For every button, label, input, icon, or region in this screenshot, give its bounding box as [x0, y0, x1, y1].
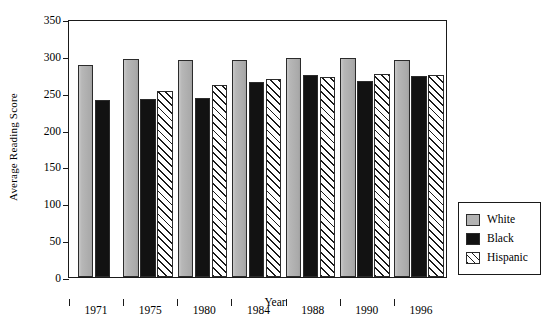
bar-hispanic-1988	[320, 77, 336, 277]
y-tick-label: 200	[31, 126, 61, 138]
legend-item-hispanic: Hispanic	[466, 248, 533, 267]
bar-hispanic-1980	[212, 85, 228, 277]
bar-white-1988	[286, 58, 302, 277]
legend-item-black: Black	[466, 229, 533, 248]
bar-white-1996	[394, 60, 410, 277]
y-tick-label: 150	[31, 162, 61, 174]
bar-white-1980	[178, 60, 194, 277]
figure: Average Reading Score 050100150200250300…	[0, 0, 550, 315]
bar-black-1988	[303, 75, 319, 277]
y-tick-label: 50	[31, 236, 61, 248]
bar-white-1984	[232, 60, 248, 277]
legend-label: Black	[487, 233, 514, 245]
y-tick-mark	[63, 242, 69, 243]
y-tick-mark	[63, 205, 69, 206]
y-tick-mark	[63, 132, 69, 133]
bar-hispanic-1975	[157, 91, 173, 277]
bar-hispanic-1990	[374, 74, 390, 277]
bar-black-1990	[357, 81, 373, 277]
y-tick-label: 350	[31, 15, 61, 27]
y-tick-label: 250	[31, 89, 61, 101]
bar-black-1984	[249, 82, 265, 277]
bar-black-1996	[411, 76, 427, 277]
y-axis-title: Average Reading Score	[7, 27, 19, 267]
y-tick-label: 300	[31, 52, 61, 64]
bar-hispanic-1996	[428, 75, 444, 277]
legend-label: Hispanic	[487, 252, 528, 264]
legend: WhiteBlackHispanic	[458, 202, 541, 275]
legend-swatch-black-icon	[466, 233, 480, 245]
plot-area: Average Reading Score 050100150200250300…	[68, 20, 447, 278]
y-tick-mark	[63, 58, 69, 59]
legend-swatch-white-icon	[466, 214, 480, 226]
y-tick-mark	[63, 279, 69, 280]
y-tick-mark	[63, 168, 69, 169]
legend-swatch-hispanic-icon	[466, 252, 480, 264]
legend-label: White	[487, 214, 515, 226]
bar-black-1975	[140, 99, 156, 277]
bar-white-1975	[123, 59, 139, 277]
y-tick-label: 0	[31, 273, 61, 285]
y-tick-label: 100	[31, 199, 61, 211]
bar-black-1980	[195, 98, 211, 277]
x-axis-title: Year	[0, 296, 550, 308]
bar-hispanic-1984	[266, 79, 282, 277]
y-tick-mark	[63, 21, 69, 22]
y-tick-mark	[63, 95, 69, 96]
bar-black-1971	[95, 100, 111, 277]
bar-white-1990	[340, 58, 356, 277]
bar-white-1971	[78, 65, 94, 277]
legend-item-white: White	[466, 210, 533, 229]
